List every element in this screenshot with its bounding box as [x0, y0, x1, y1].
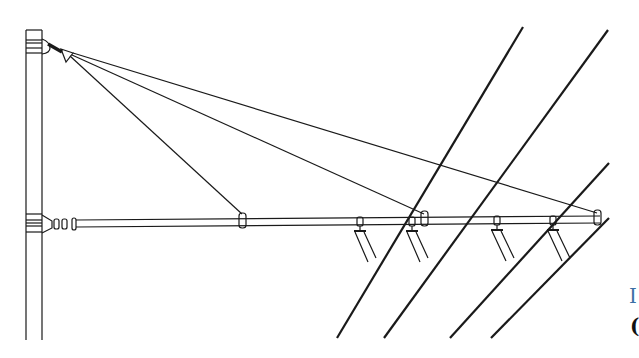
mast — [26, 30, 42, 340]
registration-arm-3 — [491, 216, 514, 261]
top-bracket — [42, 39, 73, 62]
cantilever-tube — [76, 216, 600, 227]
contact-wires — [337, 27, 609, 338]
lower-bracket — [26, 214, 76, 233]
diagonal-ties — [70, 53, 597, 214]
registration-arm-1 — [354, 217, 376, 262]
edge-text-fragment: ( — [630, 316, 639, 336]
edge-text-fragment: I — [629, 286, 637, 306]
